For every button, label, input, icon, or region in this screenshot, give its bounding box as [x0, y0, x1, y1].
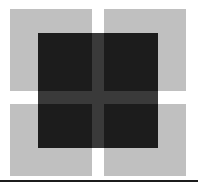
- dark-square-quadrant-bottom-left: [38, 104, 92, 148]
- dark-square-quadrant-top-right: [104, 33, 158, 91]
- dark-square-cross-horizontal: [38, 91, 158, 104]
- dark-square-quadrant-bottom-right: [104, 104, 158, 148]
- figure-canvas: [0, 0, 198, 185]
- bottom-rule: [0, 180, 198, 182]
- dark-square-quadrant-top-left: [38, 33, 92, 91]
